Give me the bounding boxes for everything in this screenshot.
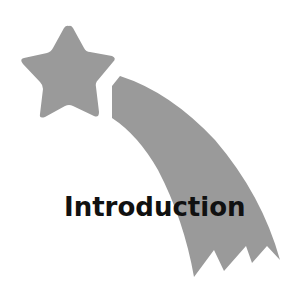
- star-shape: [21, 26, 115, 118]
- comet-tail-shape: [112, 76, 280, 277]
- page-title: Introduction: [64, 192, 246, 222]
- shooting-star-icon: [0, 0, 303, 295]
